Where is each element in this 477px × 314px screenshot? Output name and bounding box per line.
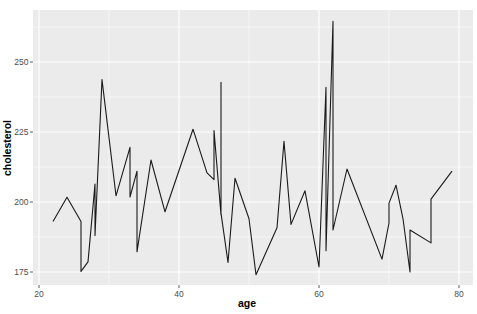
y-axis: 175200225250 [14, 57, 33, 277]
y-tick-label: 250 [14, 57, 28, 67]
y-axis-title: cholesterol [1, 120, 13, 176]
x-tick-label: 80 [454, 289, 464, 299]
y-tick-label: 200 [14, 197, 28, 207]
y-tick-label: 225 [14, 127, 28, 137]
x-tick-label: 60 [314, 289, 324, 299]
y-tick-label: 175 [14, 267, 28, 277]
line-chart: 20406080 175200225250 age cholesterol [0, 0, 477, 314]
x-tick-label: 40 [174, 289, 184, 299]
x-tick-label: 20 [34, 289, 44, 299]
x-axis-title: age [238, 297, 256, 309]
